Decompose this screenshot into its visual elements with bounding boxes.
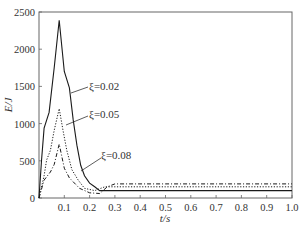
series-line-solid	[39, 20, 292, 198]
x-tick-label: 0.7	[210, 202, 223, 213]
annotation-xi-005: ξ=0.05	[89, 108, 120, 121]
x-tick-label: 0.9	[260, 202, 273, 213]
series-line-dotted	[39, 109, 292, 198]
y-tick-label: 1500	[14, 81, 35, 92]
series-line-dash-dot	[39, 144, 292, 198]
y-tick-label: 0	[30, 193, 35, 204]
annotation-xi-002: ξ=0.02	[89, 80, 119, 93]
x-tick-label: 0.2	[83, 202, 96, 213]
y-axis-label: E/J	[2, 97, 14, 114]
annotation-xi-008: ξ=0.08	[101, 149, 132, 162]
x-tick-label: 0.1	[58, 202, 71, 213]
x-tick-label: 0.4	[134, 202, 148, 213]
plot-frame	[39, 12, 292, 198]
x-tick-label: 1.0	[285, 202, 298, 213]
y-tick-label: 2000	[14, 44, 35, 55]
x-axis-label: t/s	[160, 212, 170, 224]
energy-time-chart: 05001000150020002500 0.10.20.30.40.50.60…	[0, 0, 303, 227]
x-tick-label: 0.6	[184, 202, 197, 213]
leader-line-xi-002	[71, 87, 88, 93]
y-tick-label: 2500	[14, 7, 35, 18]
y-tick-label: 500	[19, 156, 35, 167]
leader-line-xi-008	[81, 158, 101, 171]
y-axis-ticks: 05001000150020002500	[14, 7, 42, 204]
y-tick-label: 1000	[14, 119, 35, 130]
leader-line-xi-005	[66, 116, 88, 125]
x-tick-label: 0.3	[108, 202, 121, 213]
series-lines	[39, 20, 292, 198]
x-tick-label: 0.8	[235, 202, 248, 213]
